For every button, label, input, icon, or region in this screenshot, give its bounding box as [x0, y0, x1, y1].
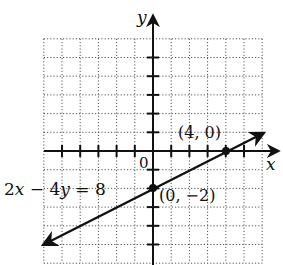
point-label-4-0: (4, 0)	[178, 123, 221, 142]
point-4-0	[222, 147, 230, 155]
equation-coef: 2	[4, 179, 15, 199]
coordinate-graph: y x 0 (4, 0) (0, −2) 2x − 4y = 8	[0, 0, 283, 265]
origin-label: 0	[139, 154, 149, 172]
point-0-neg2	[149, 184, 157, 192]
equation-minus: − 4	[24, 179, 60, 199]
equation-label: 2x − 4y = 8	[4, 179, 106, 199]
y-axis-label: y	[136, 7, 147, 27]
equation-var-x: x	[15, 179, 25, 199]
equation-var-y: y	[59, 179, 70, 199]
point-label-0-neg2: (0, −2)	[159, 186, 215, 205]
x-axis-label: x	[266, 154, 276, 174]
equation-rhs: = 8	[70, 179, 106, 199]
